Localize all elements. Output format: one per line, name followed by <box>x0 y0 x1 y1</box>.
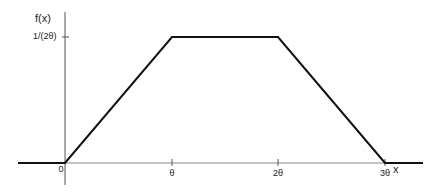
x-tick-label-3theta: 3θ <box>380 168 390 178</box>
x-tick-label-2theta: 2θ <box>273 168 283 178</box>
density-curve <box>18 37 423 163</box>
y-tick-label: 1/(2θ) <box>33 31 57 41</box>
origin-label: 0 <box>58 164 63 174</box>
x-tick-label-theta: θ <box>169 168 174 178</box>
chart-canvas <box>0 0 438 195</box>
y-axis-label: f(x) <box>35 12 51 24</box>
x-axis-label: x <box>393 163 399 175</box>
